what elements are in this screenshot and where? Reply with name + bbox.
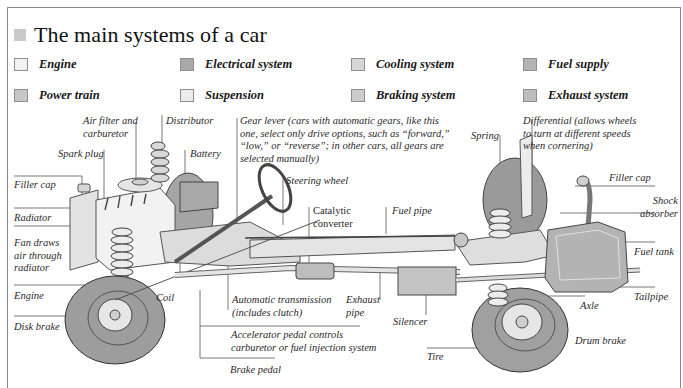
label-automatic-transmission: Automatic transmission (includes clutch)	[232, 294, 331, 319]
label-shock-absorber: Shock absorber	[640, 195, 678, 220]
label-line: one, select only drive options, such as …	[240, 128, 450, 141]
label-line: air through	[14, 250, 62, 263]
label-catalytic-converter: Catalytic converter	[313, 205, 353, 230]
label-line: converter	[313, 218, 353, 231]
label-line: when cornering)	[523, 140, 636, 153]
label-radiator: Radiator	[14, 212, 51, 225]
label-fuel-pipe: Fuel pipe	[392, 205, 432, 218]
label-line: to turn at different speeds	[523, 128, 636, 141]
label-exhaust-pipe: Exhaust pipe	[346, 294, 380, 319]
label-line: Gear lever (cars with automatic gears, l…	[240, 115, 450, 128]
label-filler-cap-front: Filler cap	[14, 179, 56, 192]
label-line: “low,” or “reverse”; in other cars, all …	[240, 140, 450, 153]
label-line: Shock	[640, 195, 678, 208]
label-tailpipe: Tailpipe	[634, 291, 668, 304]
label-line: pipe	[346, 307, 380, 320]
label-line: absorber	[640, 208, 678, 221]
label-axle: Axle	[580, 300, 599, 313]
label-line: Automatic transmission	[232, 294, 331, 307]
label-line: Differential (allows wheels	[523, 115, 636, 128]
label-line: selected manually)	[240, 153, 450, 166]
label-silencer: Silencer	[393, 316, 427, 329]
label-steering-wheel: Steering wheel	[286, 175, 348, 188]
label-gear-lever: Gear lever (cars with automatic gears, l…	[240, 115, 450, 165]
label-tire: Tire	[427, 351, 444, 364]
label-line: Air filter and	[83, 115, 138, 128]
label-spring: Spring	[471, 130, 499, 143]
label-battery: Battery	[190, 148, 221, 161]
label-accelerator: Accelerator pedal controls carburetor or…	[231, 329, 376, 354]
label-line: carburetor	[83, 128, 138, 141]
label-filler-cap-rear: Filler cap	[609, 172, 651, 185]
label-air-filter: Air filter and carburetor	[83, 115, 138, 140]
label-line: Catalytic	[313, 205, 353, 218]
label-fuel-tank: Fuel tank	[634, 246, 674, 259]
label-line: Fan draws	[14, 237, 62, 250]
label-spark-plug: Spark plug	[58, 148, 104, 161]
label-disk-brake: Disk brake	[14, 321, 60, 334]
label-distributor: Distributor	[166, 115, 213, 128]
label-differential: Differential (allows wheels to turn at d…	[523, 115, 636, 153]
label-line: Accelerator pedal controls	[231, 329, 376, 342]
label-line: radiator	[14, 262, 62, 275]
label-line: carburetor or fuel injection system	[231, 342, 376, 355]
label-line: (includes clutch)	[232, 307, 331, 320]
label-coil: Coil	[156, 292, 174, 305]
label-fan: Fan draws air through radiator	[14, 237, 62, 275]
label-drum-brake: Drum brake	[575, 335, 626, 348]
label-brake-pedal: Brake pedal	[230, 364, 281, 377]
label-line: Exhaust	[346, 294, 380, 307]
label-engine: Engine	[14, 290, 44, 303]
